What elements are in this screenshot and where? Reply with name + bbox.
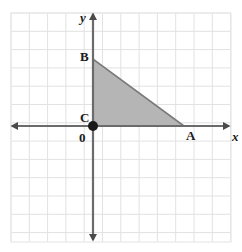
x-axis-label: x — [232, 130, 239, 143]
vertex-label-b: B — [80, 50, 89, 63]
origin-point-marker — [88, 121, 98, 131]
vertex-label-a: A — [186, 129, 195, 142]
origin-label: 0 — [79, 131, 86, 144]
shaded-triangle — [93, 59, 184, 126]
vertex-label-c: C — [80, 111, 89, 124]
y-axis-label: y — [80, 11, 86, 24]
coordinate-plane-figure: B C A 0 x y — [0, 0, 242, 252]
y-axis-down-arrow-icon — [89, 234, 97, 242]
grid-lines — [11, 13, 231, 242]
graph-canvas — [0, 0, 242, 252]
y-axis-up-arrow-icon — [89, 13, 97, 21]
